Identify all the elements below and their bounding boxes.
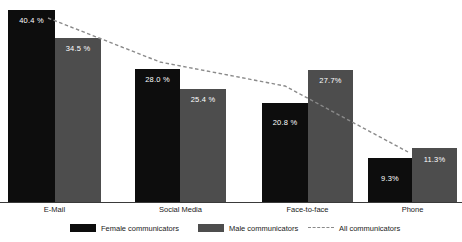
legend-item-female-communicators[interactable]: Female communicators <box>70 222 179 234</box>
legend-label-male-communicators: Male communicators <box>229 224 298 233</box>
trend-line-all-communicators <box>0 0 462 203</box>
female-swatch-icon <box>70 224 96 232</box>
legend-label-female-communicators: Female communicators <box>101 224 179 233</box>
plot-area: 40.4 % 34.5 % 28.0 % 25.4 % 20.8 % 27.7%… <box>0 0 462 203</box>
bar-chart: 40.4 % 34.5 % 28.0 % 25.4 % 20.8 % 27.7%… <box>0 0 462 242</box>
category-label-e-mail: E-Mail <box>8 205 101 214</box>
category-label-phone: Phone <box>368 205 457 214</box>
legend-item-male-communicators[interactable]: Male communicators <box>198 222 298 234</box>
category-label-face-to-face: Face-to-face <box>262 205 353 214</box>
x-axis-line <box>0 202 462 203</box>
dashed-line-swatch-icon <box>308 224 334 232</box>
legend-label-all-communicators: All communicators <box>339 224 400 233</box>
male-swatch-icon <box>198 224 224 232</box>
x-axis-category-labels: E-Mail Social Media Face-to-face Phone <box>0 205 462 219</box>
legend-item-all-communicators[interactable]: All communicators <box>308 222 400 234</box>
chart-legend: Female communicators Male communicators … <box>0 222 462 236</box>
category-label-social-media: Social Media <box>135 205 226 214</box>
trend-line-path <box>48 18 408 152</box>
